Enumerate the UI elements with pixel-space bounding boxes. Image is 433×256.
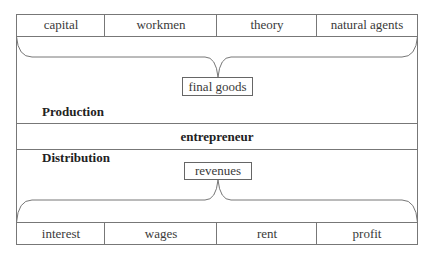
- distribution-label: Distribution: [42, 150, 110, 166]
- input-capital: capital: [17, 14, 105, 36]
- production-label: Production: [42, 104, 104, 120]
- input-theory: theory: [217, 14, 317, 36]
- input-natural-agents: natural agents: [317, 14, 417, 36]
- final-goods-box: final goods: [182, 77, 253, 96]
- entrepreneur-band: entrepreneur: [17, 124, 417, 149]
- revenues-box: revenues: [184, 162, 252, 180]
- output-wages: wages: [105, 223, 217, 244]
- output-interest: interest: [17, 223, 105, 244]
- input-workmen: workmen: [105, 14, 217, 36]
- output-rent: rent: [217, 223, 317, 244]
- output-profit: profit: [317, 223, 417, 244]
